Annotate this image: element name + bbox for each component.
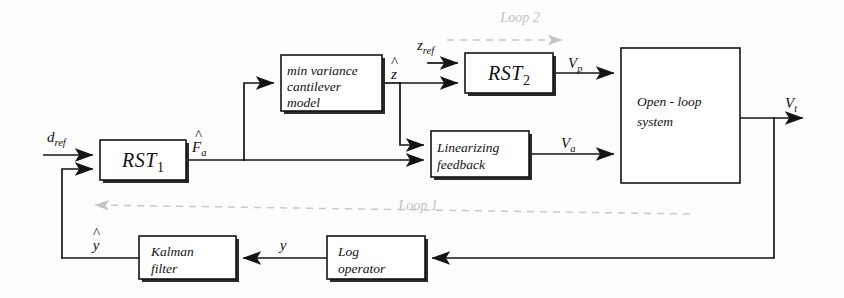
signal-label-d-ref: dref [47, 129, 68, 148]
block-rst1[interactable]: RST1 [100, 140, 189, 183]
block-openloop-line1: Open - loop [637, 94, 702, 109]
block-linearizing-feedback[interactable]: Linearizing feedback [431, 131, 532, 180]
block-openloop-line2: system [637, 114, 673, 129]
block-kalman-filter[interactable]: Kalman filter [139, 236, 239, 282]
signal-label-y: y [278, 237, 287, 253]
signal-z-ref-text: zref [416, 37, 436, 56]
block-kalman-line2: filter [151, 261, 178, 276]
block-min-variance-cantilever-model[interactable]: min variance cantilever model [281, 55, 385, 114]
block-diagram-svg: Loop 2 Loop 1 RST1 min variance cantilev… [0, 0, 844, 298]
signal-label-v-a: Va [561, 135, 575, 154]
signal-label-z-hat: ^ z [390, 54, 399, 82]
block-linfb-line2: feedback [437, 157, 486, 172]
block-minvar-line1: min variance [287, 63, 358, 78]
block-diagram-canvas: Loop 2 Loop 1 RST1 min variance cantilev… [0, 0, 844, 298]
block-kalman-line1: Kalman [150, 244, 194, 259]
signal-label-y-hat: ^ y [91, 225, 101, 253]
signal-z-hat-text: z [390, 66, 397, 82]
signal-label-v-t: Vt [785, 95, 798, 114]
block-minvar-line3: model [287, 95, 320, 110]
block-minvar-line2: cantilever [287, 79, 342, 94]
signal-label-f-hat-a: ^ Fa [191, 127, 206, 158]
wire-fa-to-minvar [244, 83, 273, 160]
signal-v-p-text: Vp [568, 55, 582, 74]
signal-label-z-ref: zref [416, 37, 436, 56]
block-rst2[interactable]: RST2 [465, 53, 556, 96]
block-open-loop-system[interactable]: Open - loop system [621, 48, 740, 183]
loop1-label: Loop 1 [397, 198, 437, 213]
loop1-arrow [95, 205, 690, 214]
signal-y-hat-text: y [91, 237, 100, 253]
block-logop-line2: operator [338, 261, 386, 276]
wire-zhat-to-linfb [400, 83, 423, 145]
signal-v-a-text: Va [561, 135, 575, 154]
loop-annotation-layer: Loop 2 Loop 1 [95, 10, 690, 214]
signal-y-text: y [278, 237, 287, 253]
loop2-label: Loop 2 [499, 10, 539, 25]
signal-f-hat-a-text: Fa [191, 139, 206, 158]
block-logop-line1: Log [337, 244, 359, 259]
block-linfb-line1: Linearizing [436, 140, 500, 155]
signal-label-v-p: Vp [568, 55, 582, 74]
signal-d-ref-text: dref [47, 129, 68, 148]
signal-v-t-text: Vt [785, 95, 798, 114]
wire-feedback-to-rst1 [62, 169, 92, 258]
block-log-operator[interactable]: Log operator [327, 236, 428, 282]
